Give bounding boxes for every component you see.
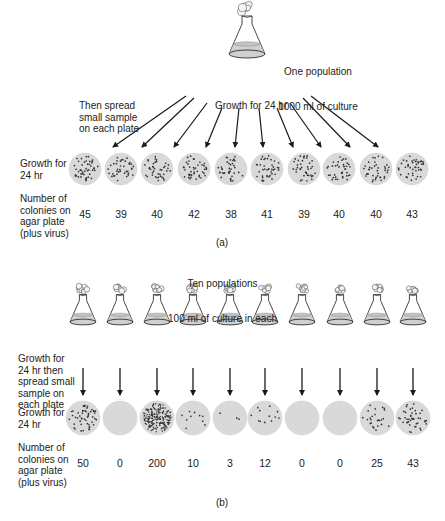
small-flask-icon xyxy=(107,284,133,325)
agar-plate xyxy=(323,153,355,185)
agar-plate xyxy=(288,153,320,185)
arrow-icon xyxy=(142,98,194,147)
colony-count: 12 xyxy=(250,457,280,469)
small-flask-icon xyxy=(400,286,426,325)
colony-count: 39 xyxy=(106,208,136,220)
panel-b-title-line2: 100 ml of culture in each xyxy=(160,313,285,325)
cotton-plug-icon xyxy=(372,284,383,293)
arrow-icon xyxy=(235,108,239,147)
colony-count: 42 xyxy=(179,208,209,220)
spread-label: Then spread small sample on each plate xyxy=(79,100,139,135)
agar-plate xyxy=(69,153,101,185)
agar-plate xyxy=(396,401,430,435)
cotton-plug-icon xyxy=(113,284,126,294)
agar-plate xyxy=(396,153,428,185)
agar-plate xyxy=(213,401,247,435)
colony-count: 40 xyxy=(142,208,172,220)
agar-plate xyxy=(285,401,319,435)
small-flask-icon xyxy=(70,283,96,325)
large-flask-icon xyxy=(229,1,265,58)
agar-plate xyxy=(251,153,283,185)
panel-b-title-line1: Ten populations xyxy=(160,278,285,290)
cotton-plug-icon xyxy=(296,284,308,293)
small-flask-icon xyxy=(364,284,390,325)
cotton-plug-icon xyxy=(238,1,253,15)
colony-count: 43 xyxy=(397,208,427,220)
agar-plate xyxy=(323,401,357,435)
cotton-plug-icon xyxy=(76,283,90,294)
fluctuation-test-diagram: One population 1000 ml of culture Then s… xyxy=(0,0,445,521)
panel-a-title-line1: One population xyxy=(268,66,368,78)
arrow-icon xyxy=(206,108,222,147)
panel-b-caption: (b) xyxy=(207,497,237,509)
arrow-icon xyxy=(174,103,207,147)
agar-plate xyxy=(105,153,137,185)
colony-count: 41 xyxy=(252,208,282,220)
agar-plate xyxy=(360,153,392,185)
small-flask-icon xyxy=(327,285,353,325)
agar-plate xyxy=(140,401,174,435)
colony-count: 50 xyxy=(68,457,98,469)
cotton-plug-icon xyxy=(335,285,345,293)
colony-count: 0 xyxy=(287,457,317,469)
cotton-plug-icon xyxy=(406,286,418,294)
panel-b-count-row-label: Number of colonies on agar plate (plus v… xyxy=(18,442,69,488)
agar-plate xyxy=(176,401,210,435)
agar-plate xyxy=(215,153,247,185)
growth-arrow-label: Growth for 24 hr xyxy=(215,100,287,112)
colony-count: 38 xyxy=(216,208,246,220)
agar-plate xyxy=(360,401,394,435)
arrow-icon xyxy=(259,108,263,147)
colony-count: 0 xyxy=(105,457,135,469)
colony-count: 43 xyxy=(398,457,428,469)
colony-count: 45 xyxy=(70,208,100,220)
colony-count: 10 xyxy=(178,457,208,469)
agar-plate xyxy=(248,401,282,435)
agar-plate xyxy=(141,153,173,185)
panel-a-title: One population 1000 ml of culture xyxy=(268,43,368,135)
panel-a-growth-row-label: Growth for 24 hr xyxy=(20,158,67,181)
panel-a-count-row-label: Number of colonies on agar plate (plus v… xyxy=(20,193,71,239)
panel-b-growth-spread-label: Growth for 24 hr then spread small sampl… xyxy=(18,353,75,411)
panel-b-growth-row-label: Growth for 24 hr xyxy=(18,407,65,430)
colony-count: 200 xyxy=(142,457,172,469)
colony-count: 40 xyxy=(361,208,391,220)
colony-count: 25 xyxy=(362,457,392,469)
small-flask-icon xyxy=(289,284,315,325)
colony-count: 39 xyxy=(289,208,319,220)
colony-count: 40 xyxy=(324,208,354,220)
colony-count: 0 xyxy=(325,457,355,469)
colony-count: 3 xyxy=(215,457,245,469)
agar-plate xyxy=(178,153,210,185)
agar-plate xyxy=(103,401,137,435)
panel-a-caption: (a) xyxy=(207,237,237,249)
panel-b-title: Ten populations 100 ml of culture in eac… xyxy=(160,255,285,347)
